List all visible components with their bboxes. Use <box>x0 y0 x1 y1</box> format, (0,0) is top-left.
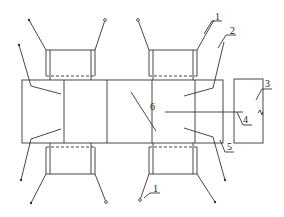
leads-bottom <box>30 174 216 204</box>
side-component <box>234 79 263 143</box>
label-3: 3 <box>265 78 270 89</box>
label-1-bottom: 1 <box>153 183 158 194</box>
label-1-top: 1 <box>215 11 220 22</box>
leads-top <box>28 19 214 50</box>
tab-bottom-left <box>46 143 95 174</box>
tab-bottom-right <box>149 143 197 174</box>
label-5: 5 <box>227 141 232 152</box>
leader-lines <box>144 21 272 198</box>
label-2: 2 <box>230 25 235 36</box>
schematic-drawing: 1 2 3 4 5 6 1 <box>0 0 284 217</box>
label-6: 6 <box>150 101 155 112</box>
tab-top-right <box>149 50 197 80</box>
diagram-canvas: 1 2 3 4 5 6 1 <box>0 0 284 217</box>
label-4: 4 <box>243 114 248 125</box>
main-body <box>22 80 223 143</box>
tab-top-left <box>46 50 95 80</box>
internal-leads <box>18 42 243 181</box>
